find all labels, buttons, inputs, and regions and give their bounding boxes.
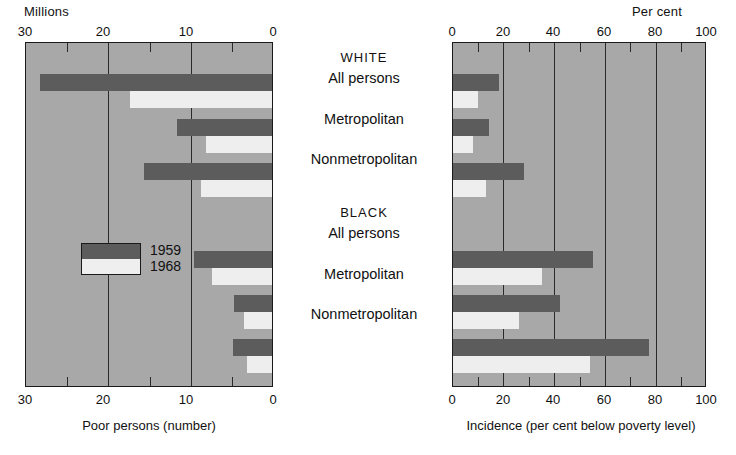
left-tick-top-30: 30	[10, 24, 40, 39]
bar-left-black-metro-1959	[234, 295, 272, 312]
right-tick-50	[580, 43, 581, 52]
bar-right-black-metro-1968	[453, 312, 519, 329]
right-tick-50-bottom	[580, 377, 581, 386]
left-tick-15	[150, 43, 151, 52]
bar-left-white-all-1959	[40, 74, 272, 91]
right-tick-top-0: 0	[437, 24, 467, 39]
bar-right-black-nonmetro-1959	[453, 339, 649, 356]
right-tick-bottom-80: 80	[640, 392, 670, 407]
right-tick-10-bottom	[478, 377, 479, 386]
left-tick-top-10: 10	[171, 24, 201, 39]
bar-right-black-all-1968	[453, 268, 542, 285]
row-label-white-all-persons: All persons	[276, 70, 452, 86]
bar-left-black-nonmetro-1968	[247, 356, 272, 373]
right-tick-bottom-60: 60	[589, 392, 619, 407]
bar-right-black-metro-1959	[453, 295, 560, 312]
right-tick-70	[630, 43, 631, 52]
left-tick-5-bottom	[232, 377, 233, 386]
legend-label-1959: 1959	[150, 242, 181, 258]
left-tick-bottom-30: 30	[10, 392, 40, 407]
row-label-white-nonmetropolitan: Nonmetropolitan	[276, 151, 452, 167]
legend-label-1968: 1968	[150, 258, 181, 274]
bar-left-white-metro-1959	[177, 119, 272, 136]
chart-legend	[81, 243, 141, 275]
row-label-black-nonmetropolitan: Nonmetropolitan	[276, 306, 452, 322]
bar-right-white-nonmetro-1968	[453, 180, 486, 197]
left-tick-25	[67, 43, 68, 52]
bar-right-white-nonmetro-1959	[453, 163, 524, 180]
bar-left-black-nonmetro-1959	[233, 339, 272, 356]
right-tick-top-40: 40	[538, 24, 568, 39]
right-gridline-40	[554, 43, 555, 386]
bar-right-white-all-1968	[453, 91, 478, 108]
left-tick-5	[232, 43, 233, 52]
bar-left-black-all-1959	[194, 251, 272, 268]
right-tick-top-60: 60	[589, 24, 619, 39]
left-tick-bottom-10: 10	[171, 392, 201, 407]
right-tick-90	[681, 43, 682, 52]
left-tick-bottom-0: 0	[258, 392, 288, 407]
right-unit-label: Per cent	[632, 4, 682, 19]
right-tick-90-bottom	[681, 377, 682, 386]
left-gridline-20	[108, 43, 109, 386]
bar-left-white-all-1968	[130, 91, 272, 108]
right-tick-30-bottom	[529, 377, 530, 386]
bar-left-white-nonmetro-1968	[201, 180, 272, 197]
right-tick-70-bottom	[630, 377, 631, 386]
right-tick-top-100: 100	[689, 24, 723, 39]
right-gridline-60	[605, 43, 606, 386]
row-label-white-metropolitan: Metropolitan	[276, 111, 452, 127]
bar-right-white-all-1959	[453, 74, 499, 91]
category-label-column: WHITE All persons Metropolitan Nonmetrop…	[276, 44, 452, 322]
right-tick-bottom-100: 100	[689, 392, 723, 407]
bar-right-black-nonmetro-1968	[453, 356, 590, 373]
left-tick-25-bottom	[67, 377, 68, 386]
left-tick-top-0: 0	[258, 24, 288, 39]
right-axis-caption: Incidence (per cent below poverty level)	[440, 418, 722, 433]
group-heading-white: WHITE	[276, 50, 452, 65]
bar-right-white-metro-1959	[453, 119, 489, 136]
right-gridline-20	[503, 43, 504, 386]
right-tick-top-20: 20	[488, 24, 518, 39]
bar-left-white-metro-1968	[206, 136, 272, 153]
right-tick-bottom-20: 20	[488, 392, 518, 407]
legend-swatch-1959	[82, 244, 140, 259]
left-tick-15-bottom	[150, 377, 151, 386]
left-tick-top-20: 20	[88, 24, 118, 39]
right-tick-bottom-0: 0	[437, 392, 467, 407]
left-unit-label: Millions	[24, 4, 69, 19]
row-label-black-all-persons: All persons	[276, 225, 452, 241]
right-tick-bottom-40: 40	[538, 392, 568, 407]
bar-left-black-all-1968	[212, 268, 272, 285]
right-tick-10	[478, 43, 479, 52]
group-heading-black: BLACK	[276, 205, 452, 220]
right-tick-30	[529, 43, 530, 52]
right-tick-top-80: 80	[640, 24, 670, 39]
left-axis-caption: Poor persons (number)	[25, 418, 273, 433]
legend-swatch-1968	[82, 259, 140, 274]
bar-left-white-nonmetro-1959	[144, 163, 272, 180]
right-gridline-80	[656, 43, 657, 386]
left-tick-bottom-20: 20	[88, 392, 118, 407]
bar-left-black-metro-1968	[244, 312, 272, 329]
row-label-black-metropolitan: Metropolitan	[276, 266, 452, 282]
bar-right-black-all-1959	[453, 251, 593, 268]
right-plot-area	[452, 42, 706, 387]
left-plot-area: 1959 1968	[25, 42, 273, 387]
bar-right-white-metro-1968	[453, 136, 473, 153]
